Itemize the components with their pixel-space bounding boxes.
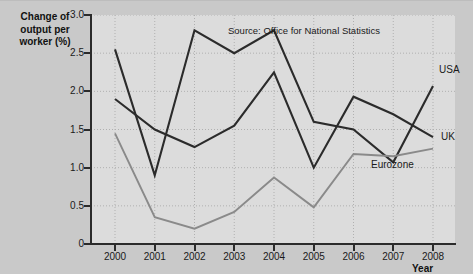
x-tick-label: 2006 [332,252,376,262]
x-tick-label: 2003 [212,252,256,262]
series-line-usa [115,30,433,175]
y-tick [84,167,91,169]
y-tick [84,129,91,131]
series-label-eurozone: Eurozone [371,159,414,170]
y-tick-label: 3.0 [56,10,84,20]
y-tick [84,90,91,92]
series-label-usa: USA [439,64,460,75]
x-tick-label: 2000 [93,252,137,262]
y-tick-label: 2.5 [56,48,84,58]
x-tick-label: 2005 [292,252,336,262]
x-tick-label: 2008 [411,252,455,262]
y-tick [84,14,91,16]
series-lines [91,15,455,244]
y-tick [84,52,91,54]
x-tick-label: 2007 [371,252,415,262]
y-tick-label: 1.5 [56,125,84,135]
source-annotation: Source: Office for National Statistics [228,25,380,36]
x-axis-title: Year [412,263,433,274]
x-tick-label: 2002 [173,252,217,262]
series-label-uk: UK [441,131,455,142]
y-tick-label: 2.0 [56,86,84,96]
y-tick-label: 0 [56,239,84,249]
x-tick-label: 2004 [252,252,296,262]
y-tick-label: 1.0 [56,163,84,173]
y-tick-label: 0.5 [56,201,84,211]
series-line-uk [115,72,433,167]
chart-figure: Change of output per worker (%) 00.51.01… [0,0,473,276]
y-tick [84,205,91,207]
plot-area [91,15,455,244]
x-tick-label: 2001 [133,252,177,262]
y-tick [84,243,91,245]
